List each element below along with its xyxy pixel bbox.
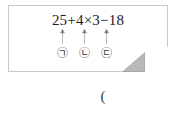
answer-open-paren: ( — [89, 88, 106, 105]
marker-circled-nieun: ㉡ — [76, 45, 93, 62]
marker-row: ㉠ ㉡ ㉢ — [0, 45, 176, 63]
answer-line: ( — [0, 88, 194, 105]
marker-circled-giyeok: ㉠ — [54, 45, 71, 62]
marker-circled-digeut: ㉢ — [98, 45, 115, 62]
math-expression: 25+4×3−18 — [0, 13, 176, 28]
